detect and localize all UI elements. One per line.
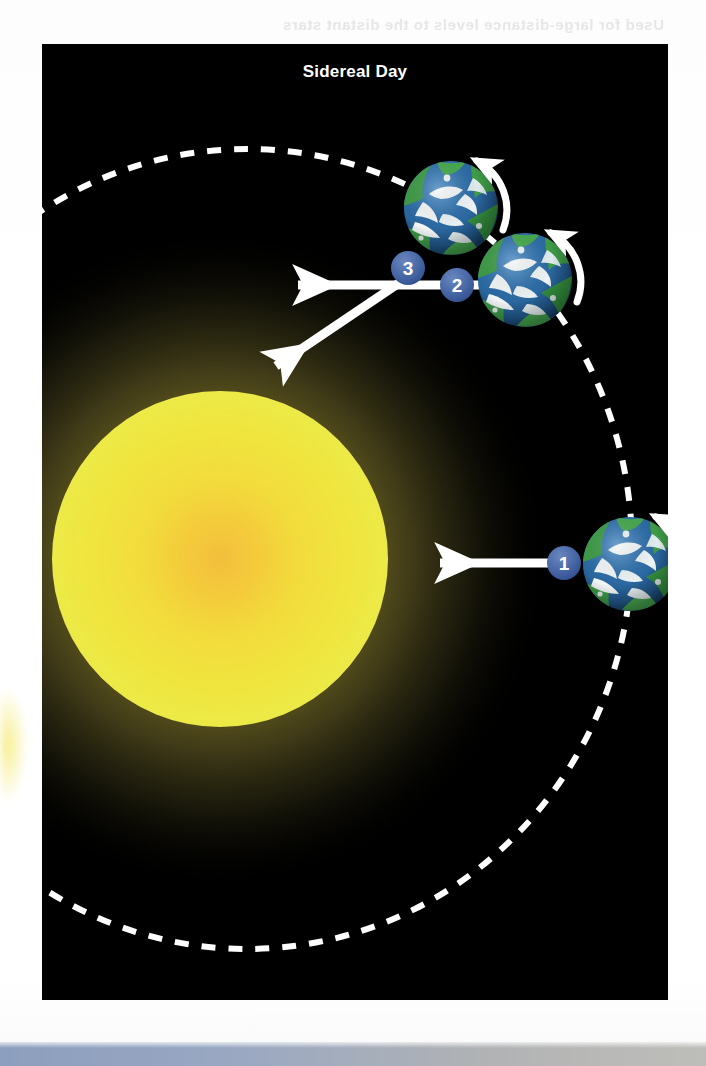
page-bottom-strip (0, 1042, 706, 1066)
bleed-through-text: Used for large-distance levels to the di… (64, 16, 664, 38)
figure-title: Sidereal Day (42, 62, 668, 82)
badge-3-label: 3 (403, 258, 414, 279)
ink-bleed-artifact (0, 690, 26, 800)
badge-2[interactable]: 2 (440, 268, 474, 302)
sidereal-day-figure: 1 2 3 Sidereal Day (42, 44, 668, 1000)
badge-1[interactable]: 1 (547, 546, 581, 580)
figure-canvas: 1 2 3 (42, 44, 668, 1000)
badge-3[interactable]: 3 (391, 251, 425, 285)
sun (52, 391, 388, 727)
earth-2 (478, 233, 581, 327)
badge-1-label: 1 (559, 553, 570, 574)
badge-2-label: 2 (452, 275, 463, 296)
earth-1 (583, 517, 668, 611)
